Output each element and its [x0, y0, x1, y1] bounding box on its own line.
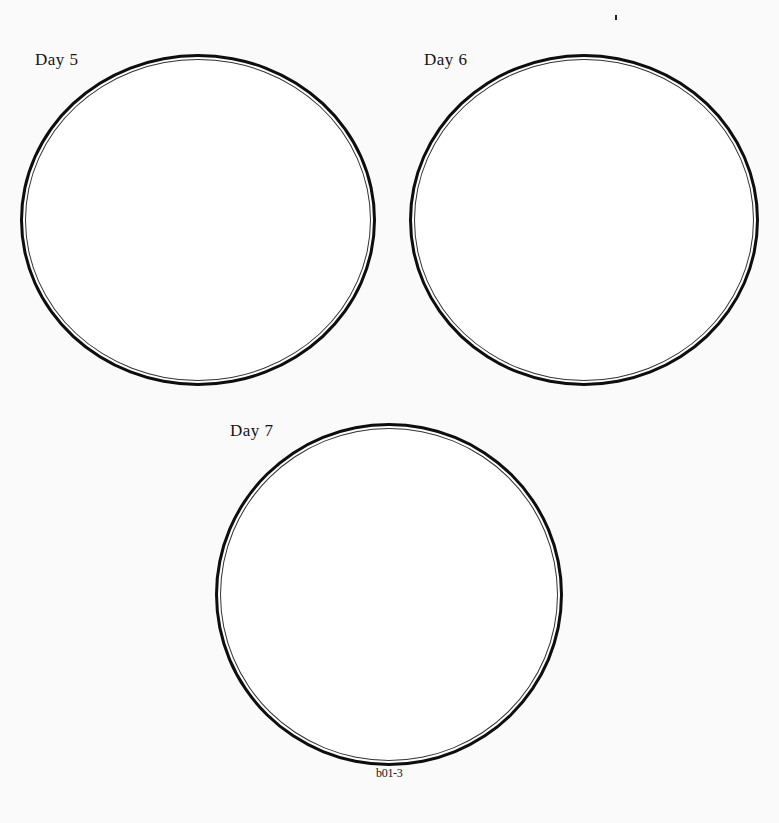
day-6-circle: [409, 54, 759, 386]
day-5-circle-inner-ring: [25, 59, 371, 381]
day-6-label: Day 6: [424, 50, 468, 70]
day-5-circle: [20, 54, 376, 386]
day-7-circle-inner-ring: [220, 428, 558, 761]
day-7-circle: [215, 423, 563, 766]
day-7-label: Day 7: [230, 421, 274, 441]
worksheet-code: b01-3: [376, 766, 403, 781]
print-speck: [615, 15, 617, 20]
worksheet-page: Day 5 Day 6 Day 7 b01-3: [0, 0, 779, 823]
day-5-label: Day 5: [35, 50, 79, 70]
day-6-circle-inner-ring: [414, 59, 754, 381]
